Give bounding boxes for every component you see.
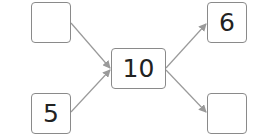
right-top-value: 6: [219, 8, 235, 37]
left-top-box[interactable]: [31, 2, 71, 43]
left-bottom-box[interactable]: 5: [31, 93, 71, 134]
arrow-left-top-to-center: [71, 23, 110, 68]
arrow-center-to-right-top: [166, 24, 206, 68]
center-value: 10: [123, 54, 155, 83]
right-top-box[interactable]: 6: [207, 2, 247, 43]
left-bottom-value: 5: [43, 99, 59, 128]
arrow-center-to-right-bottom: [166, 70, 206, 112]
center-box[interactable]: 10: [111, 48, 166, 89]
right-bottom-box[interactable]: [207, 93, 247, 134]
arrow-left-bottom-to-center: [71, 70, 110, 112]
